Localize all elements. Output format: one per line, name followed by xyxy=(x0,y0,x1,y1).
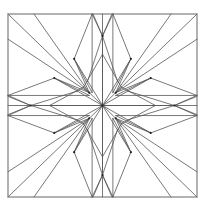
pattern-line xyxy=(93,14,102,36)
vertex-dot xyxy=(73,58,75,60)
vertex-dot xyxy=(115,92,117,94)
pattern-line xyxy=(74,152,92,197)
pattern-line xyxy=(174,96,197,105)
vertex-dot xyxy=(115,117,117,119)
pattern-line xyxy=(8,14,89,93)
pattern-line xyxy=(84,124,103,157)
star-pattern-svg xyxy=(0,0,213,204)
vertex-dot xyxy=(88,117,90,119)
pattern-line xyxy=(174,106,197,116)
vertex-dot xyxy=(53,132,55,134)
pattern-line xyxy=(74,14,92,59)
pattern-line xyxy=(116,14,197,93)
pattern-line xyxy=(103,14,113,36)
pattern-line xyxy=(8,118,89,197)
pattern-line xyxy=(151,78,197,95)
pattern-line xyxy=(103,175,113,197)
vertex-dot xyxy=(101,174,103,176)
pattern-line xyxy=(116,118,197,197)
pattern-line xyxy=(84,54,103,87)
vertex-dot xyxy=(173,104,175,106)
pattern-line xyxy=(8,116,54,133)
vertex-dot xyxy=(150,77,152,79)
pattern-line xyxy=(8,78,54,95)
pattern-line xyxy=(93,175,102,197)
vertex-dot xyxy=(130,151,132,153)
pattern-line xyxy=(8,106,31,116)
pattern-line xyxy=(8,96,31,105)
pattern-line xyxy=(113,14,131,59)
vertex-dot xyxy=(88,92,90,94)
vertex-dot xyxy=(101,104,103,106)
vertex-dot xyxy=(73,151,75,153)
quilt-block-diagram xyxy=(0,0,213,204)
vertex-dot xyxy=(30,104,32,106)
pattern-line xyxy=(151,116,197,133)
vertex-dot xyxy=(101,35,103,37)
vertex-dot xyxy=(130,58,132,60)
vertex-dot xyxy=(150,132,152,134)
pattern-line xyxy=(113,152,131,197)
vertex-dot xyxy=(53,77,55,79)
